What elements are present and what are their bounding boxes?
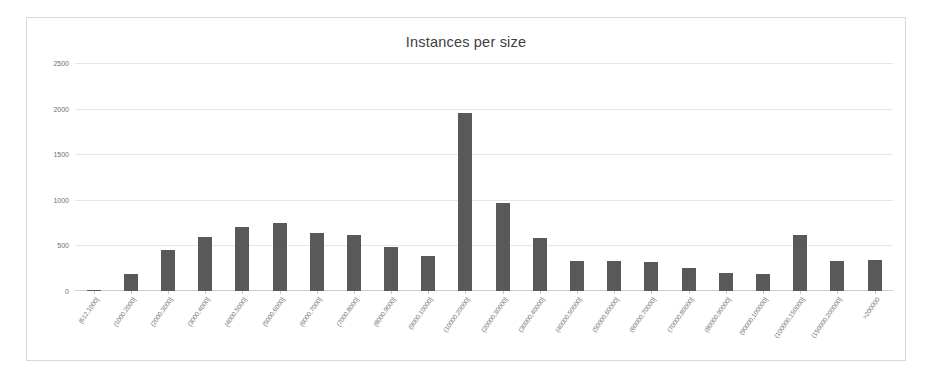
bar-slot <box>856 63 893 291</box>
bar[interactable] <box>458 113 472 291</box>
bar-slot <box>744 63 781 291</box>
bar[interactable] <box>756 274 770 291</box>
x-axis-tick-label: (70000,80000] <box>665 296 694 333</box>
bar-slot <box>224 63 261 291</box>
x-label-slot: (8000,9000] <box>373 294 410 354</box>
bar-slot <box>707 63 744 291</box>
bar-series <box>75 63 893 291</box>
bar-slot <box>670 63 707 291</box>
bar-slot <box>596 63 633 291</box>
x-axis-tick-label: (50000,60000] <box>591 296 620 333</box>
x-label-slot: (60000,70000] <box>633 294 670 354</box>
bar-slot <box>149 63 186 291</box>
bar[interactable] <box>273 223 287 291</box>
y-axis-tick-label: 0 <box>29 288 69 295</box>
x-label-slot: >200000 <box>856 294 893 354</box>
x-axis-tick-label: >200000 <box>860 296 880 320</box>
x-label-slot: (4000,5000] <box>224 294 261 354</box>
x-axis-tick-label: (5000,6000] <box>260 296 285 328</box>
x-label-slot: (150000,200000] <box>819 294 856 354</box>
bar-slot <box>521 63 558 291</box>
x-axis-tick-label: (60000,70000] <box>628 296 657 333</box>
x-axis-tick-labels: (612,1000](1000,2000](2000,3000](3000,40… <box>75 294 893 354</box>
bar[interactable] <box>868 260 882 291</box>
bar[interactable] <box>533 238 547 291</box>
bar-slot <box>819 63 856 291</box>
x-axis-tick-label: (2000,3000] <box>149 296 174 328</box>
bar-slot <box>75 63 112 291</box>
y-axis-tick-label: 2500 <box>29 60 69 67</box>
x-label-slot: (3000,4000] <box>187 294 224 354</box>
x-axis-tick-label: (30000,40000] <box>517 296 546 333</box>
x-label-slot: (40000,50000] <box>558 294 595 354</box>
bar[interactable] <box>421 256 435 291</box>
x-axis-tick-label: (1000,2000] <box>112 296 137 328</box>
x-axis-tick-label: (6000,7000] <box>297 296 322 328</box>
bar[interactable] <box>124 274 138 291</box>
bar-slot <box>484 63 521 291</box>
y-axis-tick-label: 1500 <box>29 151 69 158</box>
x-label-slot: (70000,80000] <box>670 294 707 354</box>
x-label-slot: (90000,100000] <box>744 294 781 354</box>
bar[interactable] <box>644 262 658 291</box>
bar[interactable] <box>570 261 584 291</box>
bar-slot <box>558 63 595 291</box>
bar[interactable] <box>161 250 175 291</box>
x-axis-tick-label: (10000,20000] <box>442 296 471 333</box>
x-label-slot: (9000,10000] <box>410 294 447 354</box>
x-label-slot: (20000,30000] <box>484 294 521 354</box>
bar-slot <box>298 63 335 291</box>
bar[interactable] <box>830 261 844 291</box>
x-label-slot: (6000,7000] <box>298 294 335 354</box>
x-axis-tick-label: (20000,30000] <box>479 296 508 333</box>
x-axis-tick-label: (7000,8000] <box>335 296 360 328</box>
bar-slot <box>112 63 149 291</box>
x-axis-tick-label: (80000,90000] <box>702 296 731 333</box>
bar[interactable] <box>310 233 324 291</box>
x-axis-tick-label: (4000,5000] <box>223 296 248 328</box>
chart-title: Instances per size <box>27 34 905 50</box>
bar[interactable] <box>235 227 249 291</box>
bar[interactable] <box>198 237 212 291</box>
bar[interactable] <box>793 235 807 291</box>
x-label-slot: (612,1000] <box>75 294 112 354</box>
x-label-slot: (50000,60000] <box>596 294 633 354</box>
bar[interactable] <box>496 203 510 291</box>
bar-slot <box>187 63 224 291</box>
x-label-slot: (2000,3000] <box>149 294 186 354</box>
bar-slot <box>410 63 447 291</box>
bar[interactable] <box>347 235 361 291</box>
bar[interactable] <box>682 268 696 291</box>
x-label-slot: (7000,8000] <box>335 294 372 354</box>
x-axis-tick-label: (40000,50000] <box>554 296 583 333</box>
bar-slot <box>373 63 410 291</box>
bar[interactable] <box>719 273 733 291</box>
y-axis-tick-label: 500 <box>29 242 69 249</box>
bar-slot <box>782 63 819 291</box>
x-axis-tick-label: (9000,10000] <box>407 296 434 330</box>
y-axis-tick-label: 2000 <box>29 105 69 112</box>
bar-slot <box>447 63 484 291</box>
plot-area: 05001000150020002500 <box>75 63 893 291</box>
bar[interactable] <box>384 247 398 291</box>
bar-slot <box>335 63 372 291</box>
x-label-slot: (80000,90000] <box>707 294 744 354</box>
x-label-slot: (5000,6000] <box>261 294 298 354</box>
x-label-slot: (10000,20000] <box>447 294 484 354</box>
bar[interactable] <box>607 261 621 291</box>
x-axis-tick-label: (8000,9000] <box>372 296 397 328</box>
x-axis-tick-label: (612,1000] <box>76 296 99 325</box>
chart-container: Instances per size 05001000150020002500 … <box>26 17 906 361</box>
x-axis-tick-label: (3000,4000] <box>186 296 211 328</box>
bar-slot <box>633 63 670 291</box>
x-label-slot: (100000,150000] <box>782 294 819 354</box>
y-axis-tick-label: 1000 <box>29 196 69 203</box>
x-label-slot: (30000,40000] <box>521 294 558 354</box>
x-label-slot: (1000,2000] <box>112 294 149 354</box>
bar-slot <box>261 63 298 291</box>
